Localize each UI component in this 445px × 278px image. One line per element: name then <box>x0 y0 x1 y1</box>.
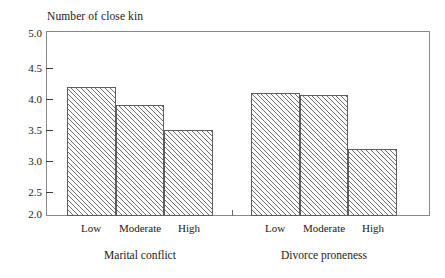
y-tick-mark-3-0 <box>46 161 53 162</box>
bar-divorce-low[interactable] <box>251 93 300 216</box>
y-tick-label-2-0: 2.0 <box>8 209 42 220</box>
y-tick-mark-3-5 <box>46 130 53 131</box>
y-tick-label-3-0: 3.0 <box>8 156 42 167</box>
y-axis: 5.0 4.5 4.0 3.5 3.0 2.5 2.0 <box>4 0 42 278</box>
group-separator-tick <box>232 210 233 216</box>
y-tick-label-4-0: 4.0 <box>8 94 42 105</box>
bar-divorce-moderate[interactable] <box>300 95 349 216</box>
bar-marital-moderate[interactable] <box>116 105 165 216</box>
group-label-divorce-proneness: Divorce proneness <box>281 249 367 261</box>
bar-marital-low[interactable] <box>67 87 116 217</box>
bar-divorce-high[interactable] <box>348 149 397 216</box>
x-label-marital-moderate: Moderate <box>119 222 161 234</box>
y-tick-label-4-5: 4.5 <box>8 63 42 74</box>
bar-marital-high[interactable] <box>164 130 213 216</box>
group-label-marital-conflict: Marital conflict <box>104 249 176 261</box>
y-tick-label-2-5: 2.5 <box>8 187 42 198</box>
chart-page: Number of close kin 5.0 4.5 4.0 3.5 3.0 … <box>0 0 445 278</box>
y-tick-label-5-0: 5.0 <box>8 28 42 39</box>
y-tick-label-3-5: 3.5 <box>8 125 42 136</box>
y-tick-mark-4-0 <box>46 99 53 100</box>
y-tick-mark-2-5 <box>46 192 53 193</box>
x-label-marital-high: High <box>178 222 200 234</box>
x-label-marital-low: Low <box>81 222 101 234</box>
chart-title: Number of close kin <box>47 10 143 22</box>
x-label-divorce-moderate: Moderate <box>303 222 345 234</box>
y-tick-mark-4-5 <box>46 68 53 69</box>
x-label-divorce-low: Low <box>265 222 285 234</box>
x-label-divorce-high: High <box>362 222 384 234</box>
